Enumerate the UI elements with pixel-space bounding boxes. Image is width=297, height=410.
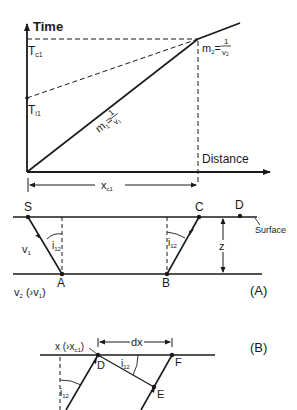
seismic-refraction-diagram: Time Distance Tc1 Ti1 m1= 1 v1 m2= 1 v2 [0,0,297,410]
x-leader [89,348,97,354]
point-d-label: D [235,198,244,212]
angle-label-left: i12 [52,240,62,252]
refracted-wave-line [198,23,240,39]
panel-a-label: (A) [250,283,267,298]
panel-a-ray-path: S C D A B i12 i12 v1 v2 (›v1) z Surface … [13,198,286,299]
angle-arc-left-b [60,380,81,385]
point-b-label: B [162,276,170,290]
time-axis-label: Time [33,19,63,34]
point-a-label: A [57,276,65,290]
angle-label-right: i12 [168,237,178,249]
panel-b-ray-path: dx x (›xc1) D F E i12 i12 (B) [40,336,267,410]
x-label: x (›xc1) [55,341,84,353]
m2-slope-label: m2= 1 v2 [202,37,231,57]
xc1-label: xc1 [101,179,114,192]
angle-arc-top [133,355,138,375]
surface-label: Surface [255,225,286,235]
svg-text:m2=: m2= [202,42,221,55]
point-e-label: E [157,388,164,400]
m1-slope-label: m1= 1 v1 [91,106,124,138]
point-c-label: C [195,200,204,214]
angle-label-top: i12 [121,358,131,370]
distance-axis-label: Distance [202,152,249,166]
ti1-label: Ti1 [28,103,41,117]
tc1-label: Tc1 [28,44,43,58]
wavefront-d-e [98,355,154,387]
time-distance-graph: Time Distance Tc1 Ti1 m1= 1 v1 m2= 1 v2 [25,19,270,192]
point-f-label: F [175,356,182,368]
panel-b-label: (B) [250,340,267,355]
direct-wave-line [27,39,198,172]
point-d-b-label: D [97,359,105,371]
svg-text:1: 1 [224,37,229,46]
depth-label: z [219,240,225,252]
angle-arc-left [47,234,62,239]
ti1-point [25,96,29,100]
v1-label: v1 [22,243,32,256]
point-s-label: S [24,200,32,214]
svg-text:v2: v2 [222,48,229,57]
v2-label: v2 (›v1) [14,286,46,299]
surface-leader [255,218,260,225]
point-d [238,214,242,218]
ti1-extrapolation-line [27,39,198,98]
dx-label: dx [131,336,143,348]
ray-to-d [66,355,98,410]
angle-label-left-b: i12 [60,387,70,399]
